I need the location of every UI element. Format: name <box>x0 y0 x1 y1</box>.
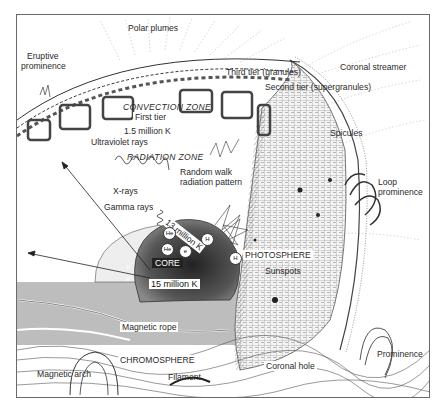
hydrogen-ion: H <box>229 252 242 265</box>
label-loop-prominence-line1: Loop <box>378 177 397 187</box>
label-photosphere: PHOTOSPHERE <box>243 250 313 260</box>
eruptive-prominence <box>40 85 50 97</box>
label-spicules: Spicules <box>330 128 362 138</box>
label-sunspots: Sunspots <box>265 266 301 276</box>
label-radiation-zone: RADIATION ZONE <box>127 152 204 162</box>
label-loop-prominence-line2: prominence <box>378 187 423 197</box>
label-polar-plumes: Polar plumes <box>128 23 178 33</box>
label-coronal-hole: Coronal hole <box>264 361 317 371</box>
label-second-tier: Second tier (supergranules) <box>265 82 371 92</box>
label-eruptive-prominence-line1: Eruptive <box>27 51 59 61</box>
label-chromosphere: CHROMOSPHERE <box>118 355 197 365</box>
label-random-walk-line2: radiation pattern <box>180 177 242 187</box>
hydrogen-ion: H <box>201 233 214 246</box>
loop-prominence <box>345 174 380 225</box>
label-first-tier: First tier <box>133 112 168 122</box>
small-particle: e <box>179 245 192 258</box>
label-magnetic-arch: Magnetic arch <box>37 369 91 379</box>
label-core: CORE <box>152 258 183 268</box>
label-gamma-rays: Gamma rays <box>104 202 153 212</box>
label-temp-convection: 1.5 million K <box>124 126 171 136</box>
label-temp-core: 15 million K <box>149 279 200 289</box>
label-random-walk-line1: Random walk <box>180 167 232 177</box>
helium-ion: He <box>163 227 176 240</box>
label-x-rays: X-rays <box>113 186 138 196</box>
neutrino-symbol: ν <box>126 262 130 271</box>
label-ultraviolet-rays: Ultraviolet rays <box>91 137 148 147</box>
neutrino-symbol: ν <box>126 274 130 283</box>
label-filament: Filament <box>168 372 201 382</box>
label-convection-zone: CONVECTION ZONE <box>123 102 211 112</box>
label-eruptive-prominence-line2: prominence <box>21 61 66 71</box>
label-magnetic-rope: Magnetic rope <box>120 322 178 332</box>
label-third-tier: Third tier (granules) <box>226 67 301 77</box>
helium-ion: He <box>161 243 174 256</box>
label-prominence: Prominence <box>377 349 423 359</box>
label-coronal-streamer: Coronal streamer <box>340 62 406 72</box>
